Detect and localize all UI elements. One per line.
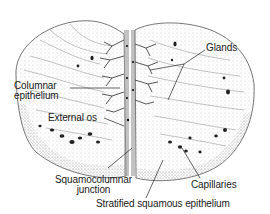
cervix-diagram: Glands Columnar epithelium External os S… [0, 0, 270, 214]
label-squamocolumnar-junction: Squamocolumnar junction [55, 175, 132, 195]
label-glands: Glands [206, 43, 237, 53]
label-capillaries: Capillaries [191, 180, 237, 190]
endocervical-canal [124, 30, 135, 176]
label-columnar-line2: epithelium [14, 91, 59, 101]
label-squamo-line2: junction [55, 185, 132, 195]
label-stratified-squamous-epithelium: Stratified squamous epithelium [96, 199, 230, 209]
label-columnar-epithelium: Columnar epithelium [14, 81, 59, 101]
label-external-os: External os [48, 113, 97, 123]
